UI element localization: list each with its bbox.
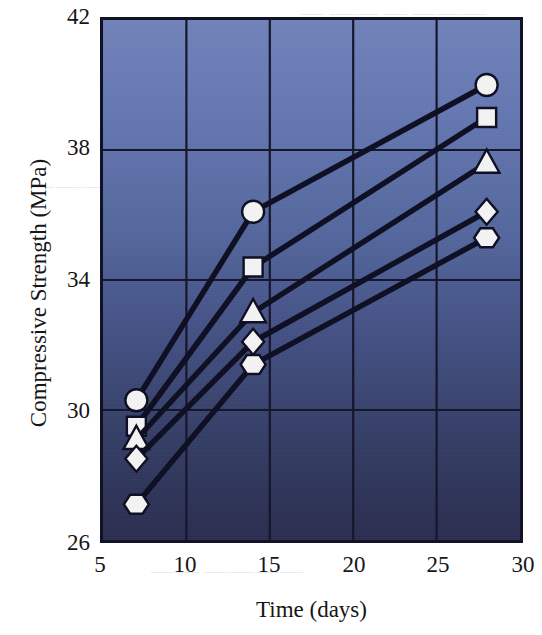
plot-area — [100, 17, 523, 543]
x-tick-label-10: 10 — [155, 552, 215, 578]
data-point-marker-hexagon — [474, 228, 499, 247]
series-line-3 — [136, 163, 486, 439]
data-point-marker-circle — [242, 201, 264, 223]
data-point-marker-triangle — [474, 150, 500, 173]
y-tick-label-42: 42 — [6, 4, 90, 30]
y-axis-title: Compressive Strength (MPa) — [26, 153, 52, 433]
data-point-marker-diamond — [476, 199, 498, 225]
data-point-marker-square — [244, 258, 263, 277]
data-point-marker-hexagon — [124, 495, 149, 514]
data-point-marker-square — [477, 108, 496, 127]
x-axis-title: Time (days) — [100, 597, 523, 623]
data-point-marker-circle — [125, 389, 147, 411]
data-point-marker-circle — [476, 74, 498, 96]
x-tick-label-25: 25 — [408, 552, 468, 578]
x-tick-label-5: 5 — [70, 552, 130, 578]
x-tick-label-30: 30 — [493, 552, 542, 578]
series-3-triangle — [124, 150, 500, 449]
x-tick-label-15: 15 — [239, 552, 299, 578]
data-point-marker-triangle — [240, 299, 266, 322]
data-series-layer — [103, 20, 520, 540]
x-tick-label-20: 20 — [324, 552, 384, 578]
figure: ⸺ ⸺⸺ ⸺ ⸺⸺⸺ ⸺⸺⸺ ⸺⸺ ⸺⸺⸺⸺ 42 38 34 30 26 5 … — [0, 0, 542, 635]
data-point-marker-hexagon — [241, 355, 266, 374]
